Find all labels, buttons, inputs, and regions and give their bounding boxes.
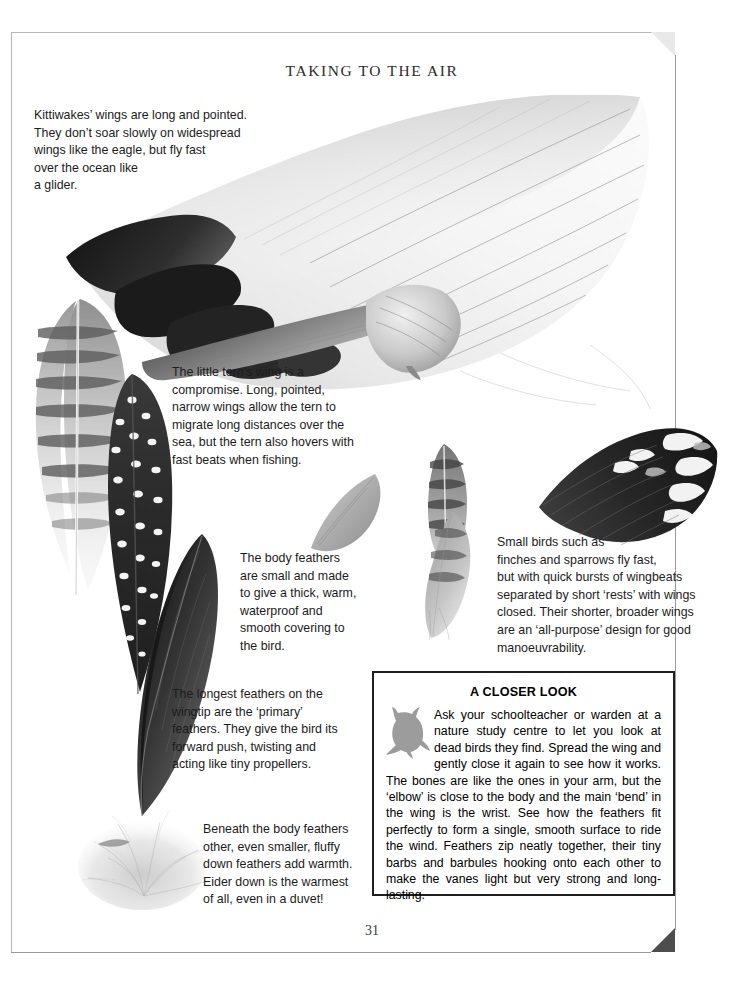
body-feather-photo-c	[395, 510, 495, 640]
corner-ornament-top-right	[651, 32, 675, 56]
primary-feather-photo	[118, 530, 238, 820]
body-feather-photo-a	[305, 470, 395, 560]
tern-body-feather-photo	[360, 280, 470, 380]
finch-wing-photo	[535, 425, 720, 550]
caption-body-feathers: The body feathers are small and made to …	[240, 550, 405, 656]
caption-kittiwake: Kittiwakes’ wings are long and pointed. …	[34, 107, 274, 195]
page-title: TAKING TO THE AIR	[0, 62, 744, 80]
caption-primary-feathers: The longest feathers on the wingtip are …	[172, 686, 362, 774]
closer-look-box: A CLOSER LOOK Ask your schoolteacher or …	[372, 671, 675, 896]
caption-down-feathers: Beneath the body feathers other, even sm…	[203, 821, 383, 909]
closer-look-heading: A CLOSER LOOK	[374, 685, 673, 699]
book-page: TAKING TO THE AIR Kittiwakes’ wings are …	[0, 0, 744, 986]
page-number: 31	[0, 923, 744, 939]
owl-icon	[386, 707, 430, 759]
down-feather-photo	[70, 800, 220, 915]
caption-small-birds: Small birds such as finches and sparrows…	[497, 534, 722, 657]
closer-look-text-wrapper: Ask your schoolteacher or warden at a na…	[386, 707, 661, 904]
caption-little-tern: The little tern’s wing is a compromise. …	[172, 364, 362, 470]
page-frame-bottom-rule	[11, 952, 651, 953]
